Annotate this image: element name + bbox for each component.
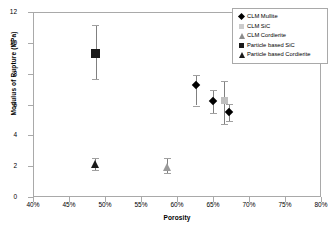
legend-item: Particle based SiC — [236, 41, 325, 50]
error-bar — [196, 75, 197, 106]
error-bar-cap — [92, 170, 99, 171]
legend-item: Particle based Cordierite — [236, 50, 325, 59]
legend-marker-icon — [236, 41, 247, 50]
x-tick-label: 50% — [88, 201, 122, 208]
x-tick-label: 70% — [232, 201, 266, 208]
legend-marker-icon — [236, 22, 247, 31]
error-bar-cap — [164, 173, 171, 174]
legend-item: CLM Cordierite — [236, 31, 325, 40]
data-point — [192, 81, 200, 89]
x-tick-label: 75% — [268, 201, 302, 208]
x-tick-mark — [285, 197, 286, 202]
legend-marker-icon — [236, 12, 247, 21]
x-tick-mark — [177, 197, 178, 202]
legend-item-label: CLM Cordierite — [247, 31, 286, 40]
data-point — [91, 49, 100, 58]
error-bar-cap — [226, 121, 233, 122]
x-tick-label: 45% — [52, 201, 86, 208]
legend-item-label: Particle based SiC — [247, 41, 295, 50]
y-tick-label: 0 — [0, 194, 17, 201]
y-tick-label: 2 — [0, 163, 17, 170]
data-point — [163, 163, 171, 171]
x-tick-mark — [213, 197, 214, 202]
x-tick-label: 55% — [124, 201, 158, 208]
x-tick-label: 60% — [160, 201, 194, 208]
y-tick-label: 4 — [0, 132, 17, 139]
x-tick-mark — [321, 197, 322, 202]
error-bar-cap — [92, 79, 99, 80]
data-point — [225, 107, 233, 115]
legend-marker-icon — [236, 31, 247, 40]
y-tick-label: 6 — [0, 102, 17, 109]
scatter-chart: Modulus of Rupture (MPa) Porosity 024681… — [0, 0, 332, 233]
error-bar-cap — [193, 75, 200, 76]
data-point — [221, 97, 228, 104]
error-bar-cap — [210, 113, 217, 114]
legend-item-label: CLM Mullite — [247, 12, 278, 21]
x-tick-mark — [33, 197, 34, 202]
x-axis-title: Porosity — [33, 214, 321, 221]
error-bar-cap — [92, 25, 99, 26]
legend-marker-icon — [236, 50, 247, 59]
error-bar-cap — [221, 81, 228, 82]
error-bar-cap — [210, 90, 217, 91]
x-tick-mark — [69, 197, 70, 202]
legend: CLM MulliteCLM SiCCLM CordieriteParticle… — [232, 8, 328, 64]
y-tick-label: 10 — [0, 40, 17, 47]
x-tick-label: 80% — [304, 201, 332, 208]
x-tick-mark — [105, 197, 106, 202]
y-tick-label: 8 — [0, 71, 17, 78]
data-point — [209, 97, 217, 105]
x-tick-label: 65% — [196, 201, 230, 208]
error-bar-cap — [193, 106, 200, 107]
legend-item-label: Particle based Cordierite — [247, 50, 310, 59]
legend-item-label: CLM SiC — [247, 22, 270, 31]
data-point — [91, 160, 99, 168]
error-bar-cap — [221, 124, 228, 125]
legend-item: CLM SiC — [236, 22, 325, 31]
legend-item: CLM Mullite — [236, 12, 325, 21]
error-bar-cap — [164, 158, 171, 159]
x-tick-mark — [249, 197, 250, 202]
y-tick-label: 12 — [0, 9, 17, 16]
x-tick-mark — [141, 197, 142, 202]
x-tick-label: 40% — [16, 201, 50, 208]
error-bar-cap — [92, 158, 99, 159]
